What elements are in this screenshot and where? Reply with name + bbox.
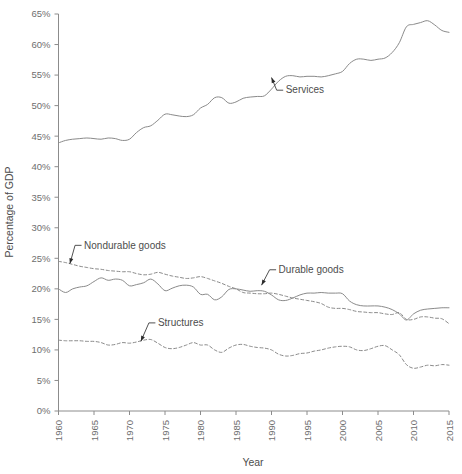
annotation-arrowhead <box>262 279 266 285</box>
x-tick-label: 1960 <box>53 420 64 441</box>
y-tick-label: 35% <box>31 192 51 203</box>
x-tick-label: 2015 <box>444 420 455 441</box>
line-chart: 0%5%10%15%20%25%30%35%40%45%50%55%60%65%… <box>0 0 462 474</box>
y-tick-label: 25% <box>31 253 51 264</box>
x-tick-label: 2010 <box>408 420 419 441</box>
series-lines <box>59 21 450 369</box>
x-tick-label: 1995 <box>302 420 313 441</box>
x-axis-ticks: 1960196519701975198019851990199520002005… <box>53 411 455 441</box>
y-tick-label: 45% <box>31 131 51 142</box>
y-tick-label: 15% <box>31 314 51 325</box>
y-tick-label: 65% <box>31 8 51 19</box>
y-tick-label: 50% <box>31 100 51 111</box>
annotation-arrowhead <box>69 258 73 264</box>
y-tick-label: 40% <box>31 161 51 172</box>
annotation-label: Nondurable goods <box>84 240 166 251</box>
series-line-nondurable-goods <box>59 261 450 323</box>
y-tick-label: 55% <box>31 69 51 80</box>
y-tick-label: 60% <box>31 39 51 50</box>
y-tick-label: 0% <box>37 405 51 416</box>
chart-container: 0%5%10%15%20%25%30%35%40%45%50%55%60%65%… <box>0 0 462 474</box>
x-tick-label: 1965 <box>89 420 100 441</box>
series-line-durable-goods <box>59 278 450 320</box>
x-tick-label: 1970 <box>124 420 135 441</box>
annotation-label: Durable goods <box>279 264 344 275</box>
x-tick-label: 1985 <box>231 420 242 441</box>
series-line-services <box>59 21 450 143</box>
annotation-label: Services <box>286 84 324 95</box>
x-tick-label: 2000 <box>337 420 348 441</box>
y-tick-label: 20% <box>31 283 51 294</box>
x-tick-label: 2005 <box>373 420 384 441</box>
annotation-label: Structures <box>158 317 204 328</box>
x-tick-label: 1980 <box>195 420 206 441</box>
series-line-structures <box>59 339 450 368</box>
x-axis-title: Year <box>242 456 264 468</box>
series-annotations: ServicesNondurable goodsDurable goodsStr… <box>69 78 343 342</box>
x-tick-label: 1990 <box>266 420 277 441</box>
y-tick-label: 30% <box>31 222 51 233</box>
y-tick-label: 10% <box>31 344 51 355</box>
annotation-arrowhead <box>272 78 276 84</box>
y-axis-ticks: 0%5%10%15%20%25%30%35%40%45%50%55%60%65% <box>31 8 58 416</box>
y-axis-title: Percentage of GDP <box>3 166 15 257</box>
x-tick-label: 1975 <box>160 420 171 441</box>
y-tick-label: 5% <box>37 375 51 386</box>
